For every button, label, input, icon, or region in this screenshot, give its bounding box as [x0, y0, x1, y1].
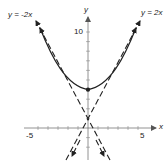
- x-tick-label-neg5: -5: [26, 132, 33, 140]
- x-axis-label: x: [159, 123, 163, 131]
- x-tick-label-5: 5: [140, 132, 144, 140]
- y-axis-label: y: [84, 6, 88, 14]
- asymptote-label-left: y = -2x: [8, 11, 32, 19]
- asymptote-neg-2x-lower-arrow: [96, 140, 104, 156]
- asymptote-2x: [66, 21, 140, 160]
- asymptote-2x-lower-arrow: [72, 140, 80, 156]
- graph-canvas: [0, 0, 168, 167]
- asymptote-neg-2x: [36, 21, 110, 160]
- asymptote-label-right: y = 2x: [141, 9, 163, 17]
- y-tick-label-10: 10: [74, 28, 83, 36]
- vertex-point: [86, 87, 90, 91]
